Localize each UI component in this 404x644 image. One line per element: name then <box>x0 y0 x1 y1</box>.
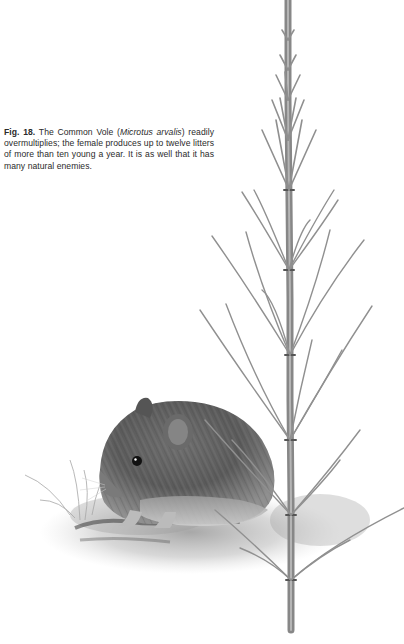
vole-horsetail-illustration <box>0 0 404 644</box>
book-page: Fig. 18. The Common Vole (Microtus arval… <box>0 0 404 644</box>
